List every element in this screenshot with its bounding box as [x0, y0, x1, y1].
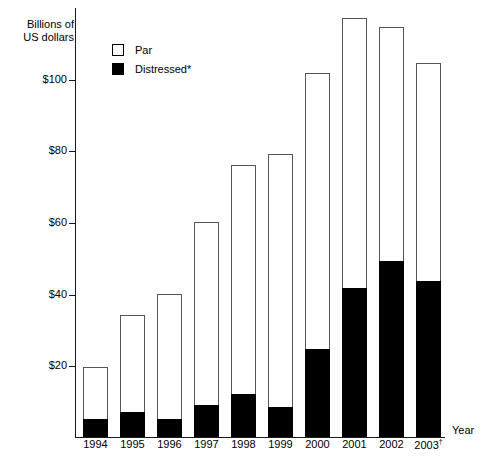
x-tick-label-2002: 2002	[372, 438, 412, 450]
y-tick-20	[69, 366, 76, 367]
x-tick-label-1996: 1996	[150, 438, 190, 450]
x-tick-label-1997: 1997	[187, 438, 227, 450]
bar-segment-distressed[interactable]	[83, 419, 108, 437]
bar-group-1994[interactable]	[83, 367, 108, 437]
bar-segment-distressed[interactable]	[379, 261, 404, 437]
y-tick-label-80: $80	[18, 144, 67, 156]
legend-label-par: Par	[135, 44, 152, 56]
bar-group-2000[interactable]	[305, 73, 330, 437]
bar-group-1995[interactable]	[120, 315, 145, 437]
y-tick-label-100: $100	[18, 73, 67, 85]
bar-segment-distressed[interactable]	[342, 288, 367, 437]
bar-segment-par[interactable]	[157, 294, 182, 437]
y-tick-40	[69, 295, 76, 296]
y-tick-label-20: $20	[18, 359, 67, 371]
bar-group-2003[interactable]	[416, 63, 441, 437]
legend-item-distressed: Distressed*	[112, 63, 191, 75]
x-tick-label-2003: 2003†	[409, 438, 449, 451]
x-tick-label-1994: 1994	[76, 438, 116, 450]
open-square-swatch-icon	[112, 44, 124, 56]
bar-segment-distressed[interactable]	[157, 419, 182, 437]
x-tick-label-2000: 2000	[298, 438, 338, 450]
stacked-bar-chart: Billions of US dollars Year $20$40$60$80…	[0, 0, 489, 465]
bar-group-1999[interactable]	[268, 154, 293, 437]
bar-segment-distressed[interactable]	[416, 281, 441, 437]
bar-segment-distressed[interactable]	[231, 394, 256, 437]
x-tick-label-2001: 2001	[335, 438, 375, 450]
bar-segment-distressed[interactable]	[305, 349, 330, 437]
y-tick-60	[69, 223, 76, 224]
filled-square-swatch-icon	[112, 63, 124, 75]
bar-group-1996[interactable]	[157, 294, 182, 437]
bar-group-2002[interactable]	[379, 27, 404, 437]
bar-group-1998[interactable]	[231, 165, 256, 437]
y-tick-100	[69, 80, 76, 81]
legend-item-par: Par	[112, 44, 191, 56]
bar-group-2001[interactable]	[342, 18, 367, 437]
bar-segment-par[interactable]	[268, 154, 293, 437]
x-tick-label-1995: 1995	[113, 438, 153, 450]
x-axis-title: Year	[452, 424, 474, 436]
y-tick-label-40: $40	[18, 288, 67, 300]
bar-segment-distressed[interactable]	[120, 412, 145, 437]
bar-segment-distressed[interactable]	[194, 405, 219, 437]
y-axis-title: Billions of US dollars	[14, 18, 74, 44]
y-tick-label-60: $60	[18, 216, 67, 228]
legend-label-distressed: Distressed*	[135, 63, 191, 75]
y-tick-80	[69, 151, 76, 152]
chart-legend: Par Distressed*	[112, 44, 191, 82]
bar-group-1997[interactable]	[194, 222, 219, 437]
bar-segment-distressed[interactable]	[268, 407, 293, 437]
x-tick-label-1998: 1998	[224, 438, 264, 450]
x-tick-label-1999: 1999	[261, 438, 301, 450]
